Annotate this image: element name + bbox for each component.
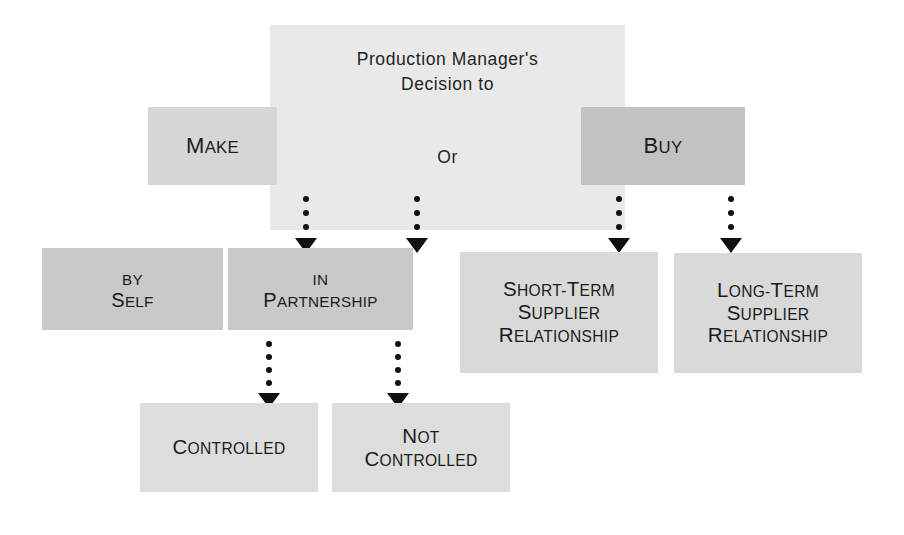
arrow-dot [395,367,401,373]
header-title-line2: Decision to [401,74,494,94]
arrow-dot [414,210,420,216]
arrow-dot [303,196,309,202]
make-branch-in-partnership-box[interactable]: In Partnership [228,248,413,330]
in-partnership-line1: In [313,267,329,289]
arrow-head-icon [720,238,742,253]
diagram-canvas: Production Manager's Decision to Or Make… [0,0,904,535]
decision-header-title: Production Manager's Decision to [357,47,539,97]
buy-branch-short-term-box[interactable]: Short-Term Supplier Relationship [460,252,658,373]
header-title-line1: Production Manager's [357,49,539,69]
arrow-dot [616,224,622,230]
controlled-label: Controlled [172,436,285,459]
arrow-dot [728,224,734,230]
arrow-dot [395,354,401,360]
outcome-controlled-box[interactable]: Controlled [140,403,318,492]
short-term-line2: Supplier [518,301,601,324]
long-term-line1: Long-Term [717,279,819,302]
by-self-line2: Self [111,289,153,311]
arrow-dot [303,224,309,230]
arrow-dot [266,354,272,360]
decision-header-box: Production Manager's Decision to Or [270,25,625,230]
arrow-make-to-by-self [295,196,317,253]
make-branch-by-self-box[interactable]: By Self [42,248,223,330]
arrow-dot [414,196,420,202]
arrow-dot [728,210,734,216]
decision-header-connector: Or [270,147,625,168]
in-partnership-line2: Partnership [263,289,377,311]
option-buy-box[interactable]: Buy [581,107,745,185]
arrow-dot [414,224,420,230]
option-make-box[interactable]: Make [148,107,277,185]
arrow-in-partnership-to-controlled [258,341,280,408]
not-controlled-line1: Not [402,425,439,448]
by-self-line1: By [122,267,143,289]
arrow-dot [395,380,401,386]
buy-branch-long-term-box[interactable]: Long-Term Supplier Relationship [674,253,862,373]
arrow-dot [303,210,309,216]
arrow-in-partnership-to-not-controlled [387,341,409,408]
short-term-line3: Relationship [499,324,619,347]
arrow-buy-to-short-term [608,196,630,253]
arrow-head-icon [608,238,630,253]
arrow-dot [266,380,272,386]
long-term-line3: Relationship [708,324,828,347]
arrow-make-to-in-partnership [406,196,428,253]
long-term-line2: Supplier [727,302,810,325]
arrow-dot [395,341,401,347]
not-controlled-line2: Controlled [364,448,477,471]
arrow-dot [728,196,734,202]
option-make-label: Make [186,134,239,159]
arrow-dot [616,210,622,216]
outcome-not-controlled-box[interactable]: Not Controlled [332,403,510,492]
arrow-dot [266,367,272,373]
short-term-line1: Short-Term [503,278,615,301]
arrow-dot [266,341,272,347]
arrow-dot [616,196,622,202]
arrow-buy-to-long-term [720,196,742,253]
option-buy-label: Buy [644,134,683,159]
